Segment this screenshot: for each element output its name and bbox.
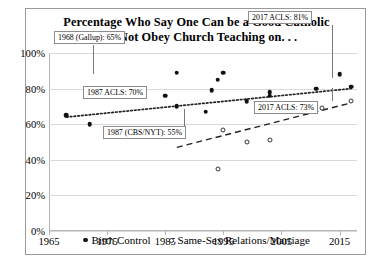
callout-cbsnyt-1987: 1987 (CBS/NYT): 55% [103, 126, 186, 139]
data-point [349, 85, 354, 90]
y-tick-label: 60% [26, 119, 45, 130]
data-point [215, 166, 220, 171]
legend-label: Same-Sex Relations/Marriage [178, 234, 310, 246]
data-point [215, 77, 220, 82]
callout-leader-line [93, 45, 94, 74]
y-tick-label: 100% [20, 48, 45, 59]
callout-leader-line [184, 109, 185, 126]
data-point [268, 93, 273, 98]
legend-item[interactable]: Birth Control [83, 233, 150, 246]
data-point [244, 99, 249, 104]
chart-title-line-1: Percentage Who Say One Can be a Good Cat… [26, 15, 367, 30]
callout-leader-line [332, 88, 333, 101]
data-point [244, 140, 249, 145]
data-point [64, 113, 69, 118]
data-point [314, 86, 319, 91]
data-point [175, 70, 180, 75]
data-point [267, 138, 272, 143]
filled-circle-icon [83, 238, 87, 242]
data-point [209, 88, 214, 93]
data-point [320, 106, 325, 111]
y-tick-label: 20% [26, 190, 45, 201]
data-point [337, 72, 342, 77]
trendlines [49, 53, 357, 231]
data-point [163, 93, 168, 98]
callout-leader-line [332, 25, 333, 78]
data-point [204, 109, 209, 114]
chart-legend: Birth ControlSame-Sex Relations/Marriage [26, 233, 367, 246]
callout-acls-2017-ss: 2017 ACLS: 73% [254, 101, 318, 114]
data-point [221, 127, 226, 132]
plot-area: 0%20%40%60%80%100% 196519751985199520052… [49, 53, 357, 231]
data-point [221, 70, 226, 75]
legend-label: Birth Control [92, 234, 151, 246]
y-tick-label: 80% [26, 83, 45, 94]
chart-card: Percentage Who Say One Can be a Good Cat… [25, 8, 366, 255]
data-point [175, 104, 180, 109]
callout-acls-2017-bc: 2017 ACLS: 81% [248, 11, 312, 24]
data-point [87, 122, 92, 127]
data-point [349, 99, 354, 104]
legend-item[interactable]: Same-Sex Relations/Marriage [169, 233, 310, 246]
callout-acls-1987: 1987 ACLS: 70% [83, 86, 147, 99]
y-tick-label: 40% [26, 154, 45, 165]
open-circle-icon [169, 238, 174, 243]
callout-gallup-1968: 1968 (Gallup): 65% [54, 31, 125, 44]
